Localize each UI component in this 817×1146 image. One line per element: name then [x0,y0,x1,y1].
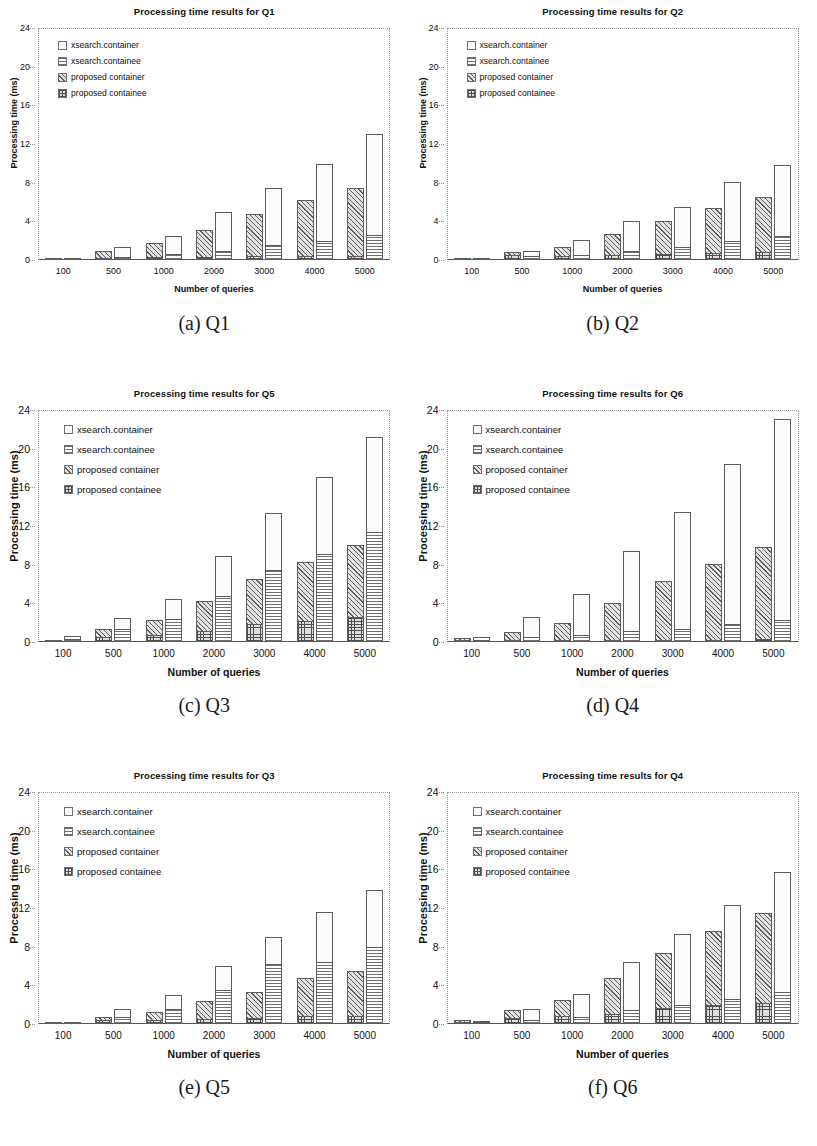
proposed-containee-segment [455,1022,470,1023]
subfigure-caption: (b) Q2 [409,312,817,335]
bar [554,247,571,260]
legend-item-xsearch_container: xsearch.container [467,40,556,50]
xsearch-container-segment [775,420,790,620]
legend-item-xsearch_containee: xsearch.containee [58,56,147,66]
y-tick-mark [30,260,35,261]
xsearch-containee-segment [474,258,489,259]
bar [774,419,791,642]
xsearch-containee-segment [474,1022,489,1023]
xsearch-containee-segment [115,257,130,259]
xsearch-container-segment [725,183,740,241]
legend-item-xsearch_container: xsearch.container [64,806,161,817]
y-tick-label: 24 [18,404,30,416]
legend: xsearch.containerxsearch.containeepropos… [64,806,161,877]
proposed_containee-swatch-icon [473,485,482,494]
y-tick-label: 24 [20,23,30,33]
bar [265,188,282,260]
bar [95,251,112,260]
y-tick-mark [30,565,35,566]
bar-group [648,792,698,1024]
y-tick-mark [30,410,35,411]
bar [316,912,333,1024]
proposed-container-segment [555,248,570,256]
legend-label: xsearch.containee [71,56,141,66]
legend: xsearch.containerxsearch.containeepropos… [473,806,570,877]
proposed-containee-segment [197,257,212,259]
proposed-container-segment [555,624,570,640]
y-tick-mark [439,526,444,527]
proposed-container-segment [96,630,111,637]
y-tick-mark [439,67,444,68]
legend-item-proposed_container: proposed container [467,72,556,82]
x-tick-label: 500 [88,1030,138,1046]
legend-label: proposed container [77,846,159,857]
proposed-containee-segment [348,617,363,641]
proposed-containee-segment [147,1020,162,1023]
proposed-containee-segment [147,257,162,259]
bar [755,547,772,642]
y-tick-mark [30,28,35,29]
xsearch-containee-segment [775,620,790,641]
subfigure-caption: (a) Q1 [0,312,409,335]
xsearch-containee-segment [474,640,489,641]
y-tick-label: 24 [428,23,438,33]
y-tick-mark [439,831,444,832]
bar [504,252,521,260]
xsearch-containee-segment [65,1022,80,1023]
legend-item-proposed_containee: proposed containee [473,484,570,495]
proposed_containee-swatch-icon [64,867,73,876]
xsearch_containee-swatch-icon [473,445,482,454]
legend-label: xsearch.container [71,40,139,50]
xsearch-container-segment [624,963,639,1010]
bar-group [648,410,698,642]
legend-item-proposed_container: proposed container [473,464,570,475]
panel-d: Processing time results for Q6Processing… [409,382,817,764]
bar [95,1017,112,1024]
y-axis-ticks: 04812162024 [0,792,36,1024]
proposed-container-segment [706,565,721,640]
bar [114,1009,131,1024]
legend-item-xsearch_containee: xsearch.containee [467,56,556,66]
proposed-container-segment [298,979,313,1017]
y-tick-mark [439,565,444,566]
proposed-containee-segment [298,256,313,259]
y-tick-label: 12 [20,139,30,149]
bar-group [748,410,798,642]
proposed-container-segment [247,993,262,1018]
proposed-containee-segment [756,639,771,641]
xsearch-container-segment [166,600,181,619]
chart-q5: Processing time results for Q5Processing… [0,382,409,694]
y-tick-label: 16 [427,863,439,875]
bar [165,236,182,260]
xsearch-container-segment [317,165,332,242]
proposed-containee-segment [96,637,111,641]
plot-area: xsearch.containerxsearch.containeepropos… [447,28,799,260]
bar [146,620,163,642]
proposed-container-segment [197,1002,212,1018]
xsearch-container-segment [574,241,589,255]
x-tick-label: 500 [497,648,547,664]
legend-label: xsearch.containee [486,826,564,837]
bar [573,994,590,1024]
x-axis-ticks: 10050010002000300040005000 [447,648,799,664]
bar [454,258,471,260]
bar-group [239,792,289,1024]
bar [316,164,333,260]
x-tick-label: 3000 [648,266,698,282]
proposed_containee-swatch-icon [473,867,482,876]
bar [523,251,540,260]
xsearch-container-segment [115,619,130,629]
proposed-container-segment [247,580,262,624]
proposed-containee-segment [455,258,470,259]
bar [454,638,471,642]
bar [623,221,640,260]
xsearch-containee-segment [524,637,539,641]
xsearch-containee-segment [266,245,281,259]
figure-page: Processing time results for Q1Processing… [0,0,817,1146]
y-tick-mark [30,105,35,106]
legend-label: proposed containee [480,88,556,98]
bar [45,1022,62,1024]
xsearch-containee-segment [317,554,332,641]
y-tick-label: 16 [20,100,30,110]
chart-q4: Processing time results for Q4Processing… [409,764,817,1076]
